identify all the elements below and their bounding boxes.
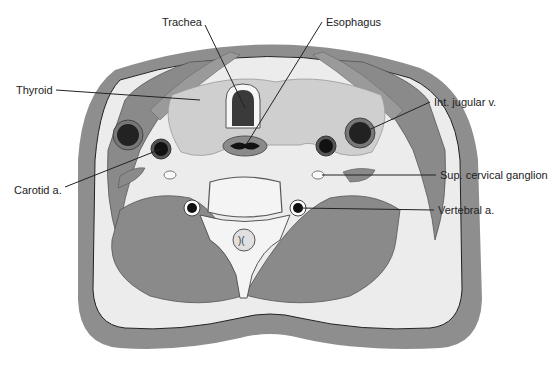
label-vertebral: Vertebral a. <box>438 204 494 216</box>
label-int-jugular: Int. jugular v. <box>434 96 496 108</box>
vertebral-body <box>208 177 282 217</box>
anatomy-illustration: )( <box>0 0 553 371</box>
sup-cervical-ganglion-left <box>164 171 176 179</box>
label-thyroid: Thyroid <box>16 84 53 96</box>
label-trachea: Trachea <box>162 16 202 28</box>
neck-cross-section-diagram: )( Trachea Esophagus Thyroid Int. jugula… <box>0 0 553 371</box>
label-sup-cervical-ganglion: Sup. cervical ganglion <box>440 169 548 181</box>
svg-text:)(: )( <box>238 235 245 246</box>
label-carotid: Carotid a. <box>14 184 62 196</box>
trachea-lumen <box>232 90 254 126</box>
label-esophagus: Esophagus <box>326 16 381 28</box>
